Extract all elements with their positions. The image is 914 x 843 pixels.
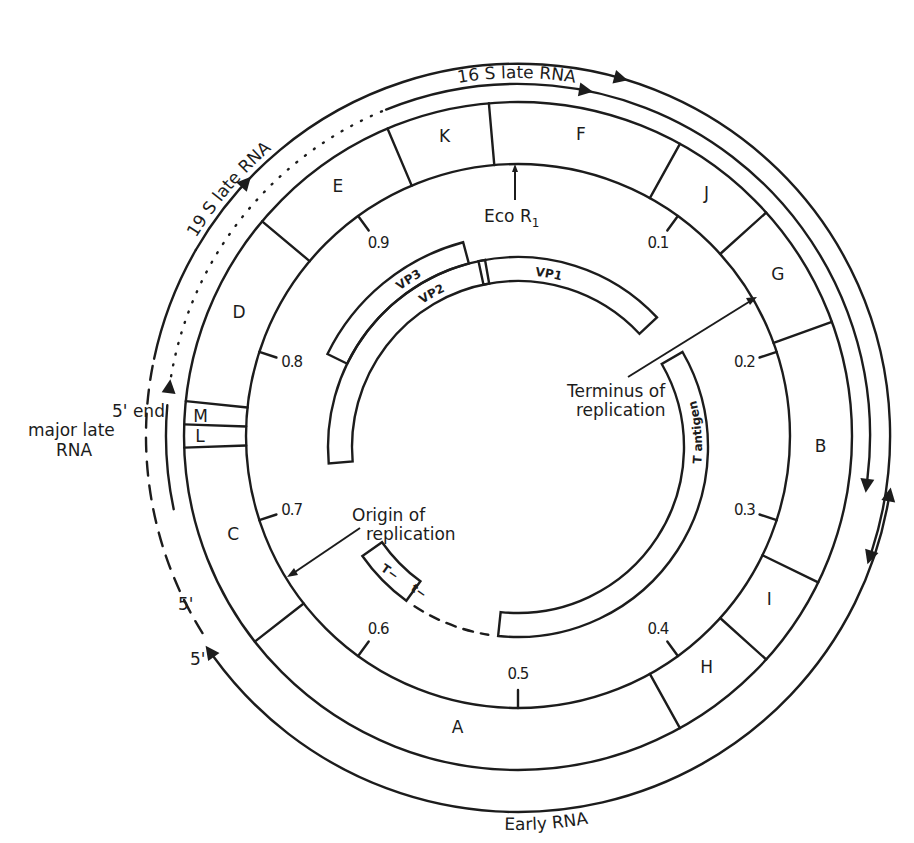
map-unit-label: 0.8: [281, 353, 302, 371]
fragment-label-i: I: [767, 589, 772, 609]
late-16s-end-arrow-icon: [859, 478, 875, 494]
five-prime-early-label: 5': [190, 649, 206, 669]
five-prime-late-label: 5': [178, 594, 194, 614]
fragment-label-d: D: [233, 302, 246, 322]
fragment-boundary: [650, 144, 680, 198]
fragment-label-a: A: [452, 717, 464, 737]
late-19s-top-arrow-icon: [612, 70, 629, 87]
vp1-label: VP1: [535, 265, 564, 283]
eco-r1-label: Eco R1: [484, 206, 539, 230]
map-unit-label: 0.9: [368, 234, 389, 252]
fragment-boundary: [650, 674, 680, 728]
map-unit-tick: [760, 514, 777, 520]
fragment-boundary: [255, 603, 304, 641]
t-antigen-label: T antigen: [685, 399, 705, 464]
origin-label-line1: Origin of: [352, 505, 426, 525]
fragment-label-k: K: [439, 126, 451, 146]
major-late-5prime-arrow-icon: [162, 378, 178, 394]
fragment-label-e: E: [332, 176, 343, 196]
early-rna-end-arrow-icon: [881, 486, 897, 502]
fragment-label-m: M: [193, 406, 208, 426]
terminus-label-line2: replication: [576, 400, 666, 420]
map-unit-label: 0.2: [734, 353, 755, 371]
terminus-label-line1: Terminus of: [566, 381, 666, 401]
fragment-label-g: G: [771, 264, 784, 284]
fragment-boundary: [387, 129, 411, 186]
map-unit-tick: [760, 352, 777, 358]
fragment-label-c: C: [227, 524, 239, 544]
map-unit-label: 0.3: [734, 501, 755, 519]
fragment-boundary: [489, 103, 494, 165]
major-late-5prime-arc: [166, 405, 174, 509]
map-unit-label: 0.4: [647, 620, 668, 638]
vp3-band: [327, 242, 468, 363]
map-canvas: FJGBIHACLMDEK 0.10.20.30.40.50.60.70.80.…: [0, 0, 914, 843]
fragment-label-h: H: [700, 657, 713, 677]
five-end-label-line1: 5' end: [112, 401, 165, 421]
origin-arrowhead-icon: [287, 568, 298, 577]
map-unit-label: 0.6: [368, 620, 389, 638]
five-end-label-line3: RNA: [56, 440, 93, 460]
map-unit-tick: [358, 216, 369, 231]
fragment-boundary: [184, 445, 246, 447]
origin-label-line2: replication: [366, 524, 456, 544]
restriction-fragments: FJGBIHACLMDEK: [184, 103, 832, 737]
fragment-boundary: [762, 555, 818, 582]
fragment-label-j: J: [703, 183, 709, 203]
early-rna-arc: [214, 501, 889, 812]
five-end-label-line2: major late: [28, 420, 115, 440]
fragment-boundary: [262, 221, 309, 261]
map-unit-tick: [358, 641, 369, 656]
map-unit-tick: [259, 352, 276, 358]
late-19s-rna-arc-start: [154, 250, 196, 359]
vp3-label: VP3: [393, 267, 423, 293]
late-19s-rna-dashed: [146, 359, 203, 633]
fragment-boundary: [720, 213, 766, 254]
fragment-boundary: [774, 322, 832, 343]
map-unit-tick: [259, 514, 276, 520]
map-unit-tick: [667, 641, 678, 656]
transcripts: [146, 64, 898, 812]
vp1-band: [478, 257, 656, 334]
fragment-label-l: L: [195, 426, 205, 446]
map-unit-label: 0.1: [647, 234, 668, 252]
map-unit-tick: [667, 216, 678, 231]
small-t-minus-label: t−: [408, 581, 429, 602]
fragment-boundary: [720, 618, 766, 659]
map-unit-label: 0.5: [508, 665, 529, 683]
origin-pointer: [292, 528, 360, 574]
fragment-label-f: F: [576, 124, 586, 144]
t-antigen-splice-dashed: [415, 606, 489, 634]
sv40-map-diagram: FJGBIHACLMDEK 0.10.20.30.40.50.60.70.80.…: [0, 0, 914, 843]
fragment-label-b: B: [815, 436, 827, 456]
gene-products: [327, 242, 708, 637]
map-unit-label: 0.7: [281, 501, 302, 519]
